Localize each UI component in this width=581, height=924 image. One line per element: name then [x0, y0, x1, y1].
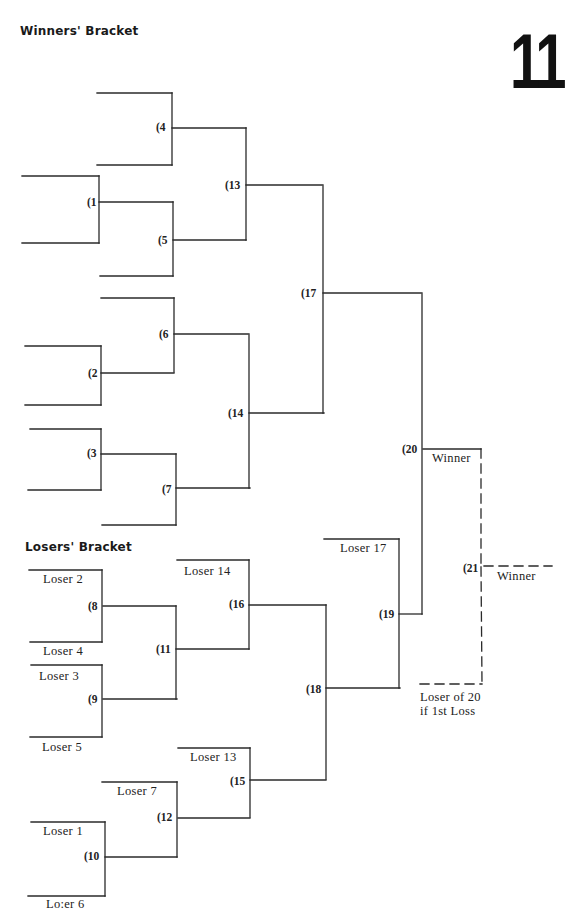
game-label-19: (19 [379, 609, 394, 621]
game-label-2: (2 [88, 368, 98, 380]
slot-winner-21: Winner [497, 570, 536, 583]
slot-loser-7: Loser 7 [117, 785, 157, 798]
game-label-12: (12 [157, 812, 172, 824]
slot-loser-3: Loser 3 [39, 670, 79, 683]
slot-loser-13: Loser 13 [190, 751, 237, 764]
bracket-line-g21-bottom-dash [481, 567, 482, 684]
game-label-9: (9 [88, 694, 98, 706]
slot-loser-4: Loser 4 [43, 645, 83, 658]
bracket-page: Winners' Bracket 11 Losers' Bracket (4 (… [0, 0, 581, 924]
game-label-6: (6 [159, 329, 169, 341]
game-label-10: (10 [84, 851, 99, 863]
slot-loser-6: Lo:er 6 [46, 898, 85, 911]
game-label-1: (1 [87, 197, 97, 209]
bracket-diagram [0, 0, 581, 924]
game-label-5: (5 [158, 235, 168, 247]
game-label-15: (15 [230, 776, 245, 788]
slot-loser-14: Loser 14 [184, 565, 231, 578]
slot-loser-1: Loser 1 [43, 825, 83, 838]
slot-loser-5: Loser 5 [42, 741, 82, 754]
game-label-14: (14 [228, 408, 243, 420]
game-label-21: (21 [463, 563, 478, 575]
slot-winner-20: Winner [432, 452, 471, 465]
game-label-17: (17 [301, 288, 316, 300]
game-label-18: (18 [306, 684, 321, 696]
game-label-20: (20 [402, 444, 417, 456]
game-label-8: (8 [88, 601, 98, 613]
game-label-3: (3 [87, 448, 97, 460]
game-label-7: (7 [162, 484, 172, 496]
slot-loser-17: Loser 17 [340, 542, 387, 555]
game-label-4: (4 [156, 122, 166, 134]
game-label-11: (11 [156, 644, 171, 656]
slot-loser-2: Loser 2 [43, 573, 83, 586]
slot-if-first-loss: if 1st Loss [420, 705, 475, 718]
game-label-16: (16 [229, 599, 244, 611]
slot-loser-of-20: Loser of 20 [420, 691, 481, 704]
game-label-13: (13 [225, 180, 240, 192]
